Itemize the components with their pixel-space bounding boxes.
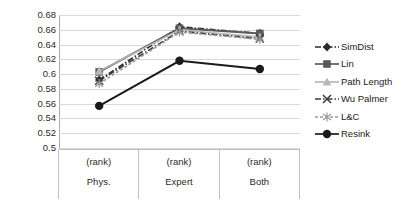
legend-item[interactable]: Resink: [314, 126, 414, 144]
data-point-marker: [95, 102, 103, 110]
data-point-marker: [175, 57, 183, 65]
legend-label: L&C: [341, 112, 359, 122]
y-axis-tick-label: 0.62: [8, 54, 56, 63]
series-line: [99, 61, 260, 106]
legend-label: Resink: [341, 129, 370, 139]
y-axis-tick-label: 0.66: [8, 25, 56, 34]
y-axis-tick-label: 0.64: [8, 40, 56, 49]
y-axis-tick-label: 0.6: [8, 69, 56, 78]
data-point-marker: [323, 112, 331, 121]
plot-area: [59, 15, 300, 148]
y-axis-tick-label: 0.5: [8, 143, 56, 152]
legend-marker-icon: [314, 40, 340, 54]
legend-item[interactable]: L&C: [314, 108, 414, 126]
x-axis-category-cell: (rank)Expert: [138, 150, 219, 199]
x-axis-category-table: (rank)Phys.(rank)Expert(rank)Both: [59, 149, 300, 199]
x-axis-category-label: Expert: [165, 176, 192, 187]
x-axis-category-cell: (rank)Phys.: [58, 150, 139, 199]
y-axis-tick-label: 0.54: [8, 113, 56, 122]
x-axis-rank-label: (rank): [86, 156, 111, 167]
series-resink: [95, 57, 264, 110]
chart-container: 0.680.660.640.620.60.580.560.540.520.5 (…: [0, 0, 414, 212]
x-axis-category-cell: (rank)Both: [219, 150, 300, 199]
series-line: [99, 31, 260, 81]
y-axis-tick-label: 0.68: [8, 10, 56, 19]
legend-label: Wu Palmer: [341, 94, 388, 104]
legend-marker-icon: [314, 110, 340, 124]
y-axis-tick-label: 0.56: [8, 99, 56, 108]
legend-item[interactable]: Wu Palmer: [314, 91, 414, 109]
legend-label: SimDist: [341, 42, 374, 52]
chart-legend: SimDistLinPath LengthWu PalmerL&CResink: [314, 38, 414, 143]
data-series-layer: [59, 15, 300, 148]
data-point-marker: [323, 60, 331, 68]
data-point-marker: [323, 42, 331, 51]
legend-marker-icon: [314, 92, 340, 106]
data-point-marker: [256, 65, 264, 73]
y-axis-tick-label: 0.52: [8, 128, 56, 137]
legend-label: Path Length: [341, 77, 392, 87]
legend-item[interactable]: SimDist: [314, 38, 414, 56]
legend-marker-icon: [314, 57, 340, 71]
data-point-marker: [323, 130, 331, 138]
x-axis-rank-label: (rank): [247, 156, 272, 167]
legend-marker-icon: [314, 127, 340, 141]
x-axis-category-label: Phys.: [87, 176, 111, 187]
legend-item[interactable]: Lin: [314, 56, 414, 74]
legend-label: Lin: [341, 59, 354, 69]
x-axis-rank-label: (rank): [167, 156, 192, 167]
legend-marker-icon: [314, 75, 340, 89]
legend-item[interactable]: Path Length: [314, 73, 414, 91]
x-axis-category-label: Both: [250, 176, 270, 187]
y-axis-tick-label: 0.58: [8, 84, 56, 93]
y-axis-tick-labels: 0.680.660.640.620.60.580.560.540.520.5: [0, 0, 56, 212]
